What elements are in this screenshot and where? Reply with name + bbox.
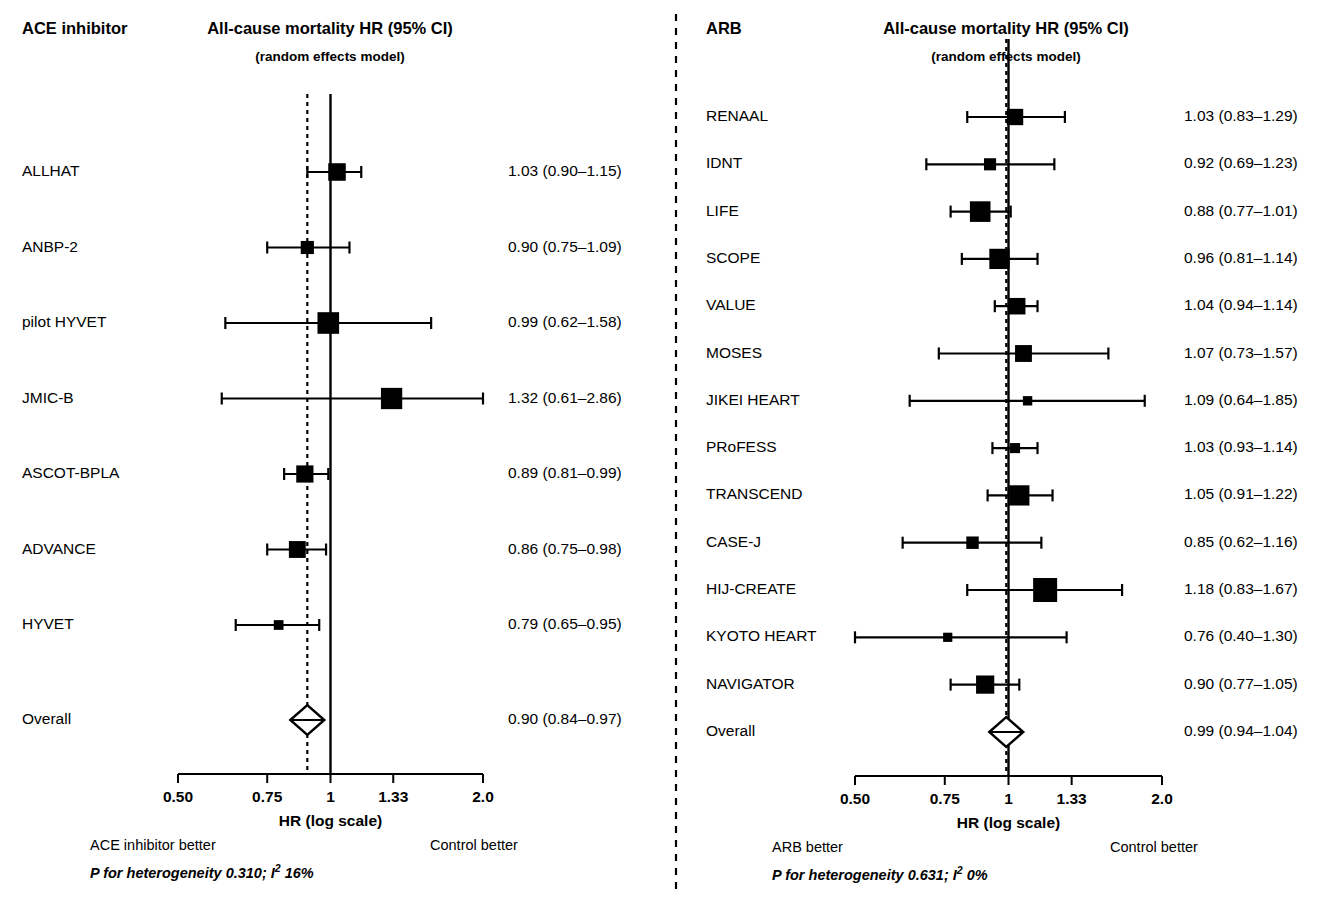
effect-size-marker	[296, 465, 313, 482]
study-estimate-value: 0.79 (0.65–0.95)	[508, 615, 622, 632]
plot-background	[0, 0, 1344, 904]
study-estimate-value: 1.04 (0.94–1.14)	[1184, 296, 1298, 313]
study-name: ALLHAT	[22, 162, 80, 179]
study-estimate-value: 0.99 (0.62–1.58)	[508, 313, 622, 330]
study-estimate-value: 1.03 (0.90–1.15)	[508, 162, 622, 179]
control-better-label: Control better	[430, 837, 518, 853]
study-name: HIJ-CREATE	[706, 580, 796, 597]
control-better-label: Control better	[1110, 839, 1198, 855]
study-estimate-value: 1.32 (0.61–2.86)	[508, 389, 622, 406]
overall-label: Overall	[22, 710, 71, 727]
axis-tick-label: 0.50	[163, 788, 193, 805]
overall-label: Overall	[706, 722, 755, 739]
forest-plot-figure: ACE inhibitorAll-cause mortality HR (95%…	[0, 0, 1344, 904]
overall-estimate-value: 0.90 (0.84–0.97)	[508, 710, 622, 727]
study-name: ASCOT-BPLA	[22, 464, 120, 481]
panel-title: All-cause mortality HR (95% CI)	[207, 19, 453, 37]
axis-tick-label: 0.50	[840, 790, 870, 807]
effect-size-marker	[989, 249, 1009, 269]
effect-size-marker	[381, 388, 402, 409]
study-name: JIKEI HEART	[706, 391, 800, 408]
treatment-better-label: ACE inhibitor better	[90, 837, 216, 853]
study-name: SCOPE	[706, 249, 760, 266]
effect-size-marker	[1009, 485, 1029, 505]
effect-size-marker	[1033, 578, 1057, 602]
axis-tick-label: 1.33	[1057, 790, 1088, 807]
effect-size-marker	[289, 541, 306, 558]
axis-title: HR (log scale)	[279, 812, 382, 829]
study-name: ANBP-2	[22, 238, 78, 255]
effect-size-marker	[1015, 345, 1032, 362]
panel-group-label: ARB	[706, 19, 742, 37]
effect-size-marker	[328, 163, 346, 181]
study-estimate-value: 1.03 (0.83–1.29)	[1184, 107, 1298, 124]
study-name: NAVIGATOR	[706, 675, 795, 692]
axis-tick-label: 2.0	[1151, 790, 1173, 807]
axis-title: HR (log scale)	[957, 814, 1060, 831]
axis-tick-label: 2.0	[472, 788, 494, 805]
study-name: HYVET	[22, 615, 74, 632]
study-estimate-value: 1.18 (0.83–1.67)	[1184, 580, 1298, 597]
effect-size-marker	[1009, 298, 1026, 315]
study-name: VALUE	[706, 296, 756, 313]
effect-size-marker	[966, 536, 978, 548]
effect-size-marker	[274, 620, 284, 630]
effect-size-marker	[943, 633, 952, 642]
study-name: RENAAL	[706, 107, 768, 124]
effect-size-marker	[984, 158, 996, 170]
study-estimate-value: 0.96 (0.81–1.14)	[1184, 249, 1298, 266]
study-estimate-value: 1.09 (0.64–1.85)	[1184, 391, 1298, 408]
study-name: pilot HYVET	[22, 313, 107, 330]
effect-size-marker	[976, 675, 994, 693]
heterogeneity-text: P for heterogeneity 0.631; I2 0%	[772, 864, 988, 883]
study-estimate-value: 0.89 (0.81–0.99)	[508, 464, 622, 481]
panel-subtitle: (random effects model)	[255, 49, 404, 64]
study-name: LIFE	[706, 202, 739, 219]
study-estimate-value: 0.92 (0.69–1.23)	[1184, 154, 1298, 171]
study-estimate-value: 0.88 (0.77–1.01)	[1184, 202, 1298, 219]
study-name: CASE-J	[706, 533, 761, 550]
effect-size-marker	[1010, 443, 1020, 453]
study-estimate-value: 1.05 (0.91–1.22)	[1184, 485, 1298, 502]
study-estimate-value: 1.03 (0.93–1.14)	[1184, 438, 1298, 455]
panel-title: All-cause mortality HR (95% CI)	[883, 19, 1129, 37]
effect-size-marker	[301, 241, 314, 254]
study-estimate-value: 0.85 (0.62–1.16)	[1184, 533, 1298, 550]
axis-tick-label: 0.75	[930, 790, 961, 807]
axis-tick-label: 1.33	[378, 788, 409, 805]
study-name: ADVANCE	[22, 540, 96, 557]
overall-estimate-value: 0.99 (0.94–1.04)	[1184, 722, 1298, 739]
study-estimate-value: 0.90 (0.75–1.09)	[508, 238, 622, 255]
heterogeneity-text: P for heterogeneity 0.310; I2 16%	[90, 862, 314, 881]
effect-size-marker	[1023, 396, 1032, 405]
study-estimate-value: 0.76 (0.40–1.30)	[1184, 627, 1298, 644]
effect-size-marker	[1007, 109, 1023, 125]
axis-tick-label: 1	[326, 788, 335, 805]
treatment-better-label: ARB better	[772, 839, 843, 855]
study-name: IDNT	[706, 154, 743, 171]
panel-group-label: ACE inhibitor	[22, 19, 128, 37]
study-name: KYOTO HEART	[706, 627, 817, 644]
study-name: PRoFESS	[706, 438, 777, 455]
forest-plot-svg: ACE inhibitorAll-cause mortality HR (95%…	[0, 0, 1344, 904]
study-name: MOSES	[706, 344, 762, 361]
effect-size-marker	[970, 201, 991, 222]
study-estimate-value: 0.90 (0.77–1.05)	[1184, 675, 1298, 692]
axis-tick-label: 0.75	[252, 788, 283, 805]
study-name: TRANSCEND	[706, 485, 802, 502]
study-estimate-value: 1.07 (0.73–1.57)	[1184, 344, 1298, 361]
study-estimate-value: 0.86 (0.75–0.98)	[508, 540, 622, 557]
effect-size-marker	[317, 312, 339, 334]
axis-tick-label: 1	[1004, 790, 1013, 807]
study-name: JMIC-B	[22, 389, 74, 406]
